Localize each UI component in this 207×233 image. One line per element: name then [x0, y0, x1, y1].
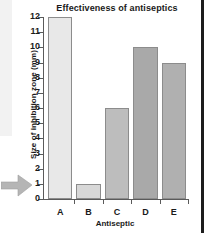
chart-title: Effectiveness of antiseptics: [42, 3, 192, 13]
y-tick-label: 11: [18, 26, 40, 37]
y-tick-label: 2: [18, 163, 40, 174]
x-tick-mark: [131, 200, 132, 204]
chart-figure: Effectiveness of antiseptics Size of inh…: [0, 0, 207, 233]
bar-e: [162, 63, 186, 200]
x-tick-label-c: C: [107, 207, 127, 217]
x-tick-mark: [188, 200, 189, 204]
y-axis-line: [43, 17, 44, 200]
y-tick-label: 0: [18, 193, 40, 204]
x-tick-label-b: B: [79, 207, 99, 217]
y-tick-label: 4: [18, 132, 40, 143]
y-tick-label: 5: [18, 117, 40, 128]
x-tick-mark: [103, 200, 104, 204]
page-right-rule: [201, 0, 204, 233]
bar-a: [48, 17, 72, 199]
bar-c: [105, 108, 129, 199]
y-tick-label: 6: [18, 102, 40, 113]
bar-d: [133, 47, 157, 199]
page-left-margin-strip: [0, 0, 12, 136]
x-axis-line: [43, 199, 189, 200]
y-tick-label: 12: [18, 11, 40, 22]
y-tick-label: 9: [18, 57, 40, 68]
x-tick-label-d: D: [135, 207, 155, 217]
x-axis-label: Antiseptic: [40, 219, 190, 228]
y-tick-label: 7: [18, 87, 40, 98]
bar-b: [76, 184, 100, 199]
y-tick-label: 8: [18, 72, 40, 83]
plot-area: 0123456789101112 ABCDE: [43, 17, 189, 200]
x-tick-mark: [160, 200, 161, 204]
y-tick-label: 10: [18, 41, 40, 52]
y-tick-label: 3: [18, 148, 40, 159]
x-tick-mark: [74, 200, 75, 204]
y-tick-label: 1: [18, 178, 40, 189]
page-right-edge: [205, 0, 207, 233]
x-tick-label-a: A: [50, 207, 70, 217]
x-tick-label-e: E: [164, 207, 184, 217]
